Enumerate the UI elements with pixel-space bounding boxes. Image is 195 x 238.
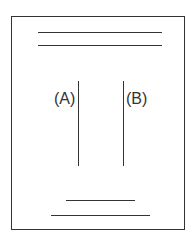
top-line-1 bbox=[38, 32, 162, 33]
line-a bbox=[78, 81, 79, 166]
bottom-line-1 bbox=[66, 200, 135, 201]
line-b bbox=[123, 81, 124, 166]
label-a: (A) bbox=[54, 91, 75, 107]
top-line-2 bbox=[38, 45, 162, 46]
bottom-line-2 bbox=[51, 215, 150, 216]
outer-frame bbox=[11, 16, 185, 230]
label-b: (B) bbox=[126, 91, 147, 107]
